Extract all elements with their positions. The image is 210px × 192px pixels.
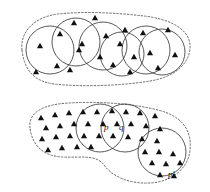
upper-region-point-21 (172, 52, 178, 57)
lower-region-point-36 (163, 161, 169, 166)
diagram-canvas: pqp' (0, 0, 210, 192)
lower-region-point-24 (110, 133, 116, 138)
lower-region-point-21 (67, 133, 73, 138)
label-q: q (119, 122, 124, 132)
lower-region-point-13 (85, 121, 91, 126)
lower-region-point-20 (53, 134, 59, 139)
lower-region (30, 102, 190, 183)
lower-region-point-31 (88, 144, 94, 149)
label-p-prime: p' (167, 169, 176, 179)
upper-region-point-1 (37, 43, 43, 48)
lower-region-point-9 (152, 113, 158, 118)
upper-region-point-5 (67, 67, 73, 72)
upper-region-point-6 (71, 20, 77, 25)
label-p: p (103, 122, 109, 132)
lower-region-point-38 (157, 172, 163, 177)
lower-region-point-25 (125, 134, 131, 139)
upper-region-point-2 (33, 69, 39, 74)
upper-region-disk-5 (122, 26, 170, 74)
upper-region-point-12 (110, 62, 116, 67)
lower-region-point-33 (156, 149, 162, 154)
upper-region-point-7 (76, 47, 82, 52)
lower-region-point-37 (177, 160, 183, 165)
lower-region-point-28 (45, 147, 51, 152)
lower-region-point-29 (59, 145, 65, 150)
lower-region-point-17 (143, 123, 149, 128)
upper-region-point-13 (117, 41, 123, 46)
lower-region-point-32 (142, 149, 148, 154)
lower-region-point-1 (38, 115, 44, 120)
figure-container: pqp' (0, 0, 210, 192)
upper-region-point-10 (97, 54, 103, 59)
upper-region-point-17 (140, 30, 146, 35)
lower-region-point-34 (170, 151, 176, 156)
lower-region-point-27 (154, 138, 160, 143)
lower-region-point-19 (39, 136, 45, 141)
upper-region-point-16 (131, 54, 137, 59)
upper-region (22, 13, 190, 86)
lower-region-point-11 (57, 123, 63, 128)
upper-region-point-14 (122, 27, 128, 32)
upper-region-point-3 (54, 63, 60, 68)
upper-region-point-19 (155, 65, 161, 70)
lower-region-point-16 (128, 121, 134, 126)
lower-region-point-7 (123, 109, 129, 114)
upper-region-disk-1 (26, 26, 74, 74)
lower-region-point-23 (96, 133, 102, 138)
upper-region-point-18 (147, 50, 153, 55)
lower-region-point-30 (74, 144, 80, 149)
upper-region-point-8 (79, 41, 85, 46)
lower-region-point-3 (66, 110, 72, 115)
upper-region-point-11 (103, 33, 109, 38)
lower-region-point-2 (52, 112, 58, 117)
point-labels: pqp' (103, 122, 176, 179)
lower-region-point-5 (94, 109, 100, 114)
lower-region-point-10 (43, 125, 49, 130)
upper-region-point-9 (92, 15, 98, 20)
lower-region-point-35 (149, 160, 155, 165)
lower-region-point-22 (81, 133, 87, 138)
lower-region-point-26 (139, 136, 145, 141)
upper-region-point-4 (57, 31, 63, 36)
